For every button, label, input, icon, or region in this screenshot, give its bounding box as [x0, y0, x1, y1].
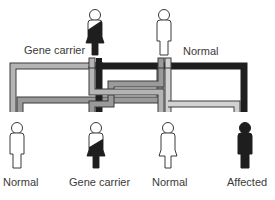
- father-stub-light: [165, 58, 171, 68]
- mother-stub-normal: [89, 58, 95, 68]
- mother-stub-defective: [96, 58, 102, 68]
- path-mother-normal-to-child-1: [13, 62, 92, 112]
- child-4-label: Affected: [227, 176, 267, 188]
- father-stub-normal: [158, 58, 164, 68]
- mother-label: Gene carrier: [24, 44, 85, 56]
- child-1-figure-icon: [10, 123, 24, 169]
- child-3-label: Normal: [152, 176, 187, 188]
- father-figure-icon: [157, 10, 171, 56]
- inheritance-paths: [0, 0, 275, 200]
- mother-figure-icon: [86, 10, 104, 56]
- child-2-label: Gene carrier: [69, 176, 130, 188]
- inheritance-diagram: Gene carrier Normal Normal Gene carrier …: [0, 0, 275, 200]
- child-3-figure-icon: [159, 123, 177, 169]
- father-label: Normal: [183, 45, 218, 57]
- child-4-figure-icon: [238, 123, 252, 169]
- child-1-label: Normal: [3, 176, 38, 188]
- child-2-figure-icon: [87, 123, 105, 169]
